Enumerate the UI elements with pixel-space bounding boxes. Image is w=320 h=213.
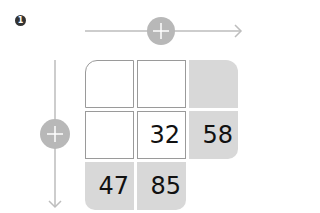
grid-cell-r2c3: 58 <box>189 111 238 159</box>
grid-cell-r2c1 <box>85 111 134 159</box>
grid-cell-r3c1: 47 <box>85 162 134 210</box>
grid-cell-r2c2: 32 <box>137 111 186 159</box>
grid-cell-r1c2 <box>137 60 186 108</box>
grid-cell-r3c2: 85 <box>137 162 186 210</box>
grid-cell-r1c3 <box>189 60 238 108</box>
grid-cell-r1c1 <box>85 60 134 108</box>
